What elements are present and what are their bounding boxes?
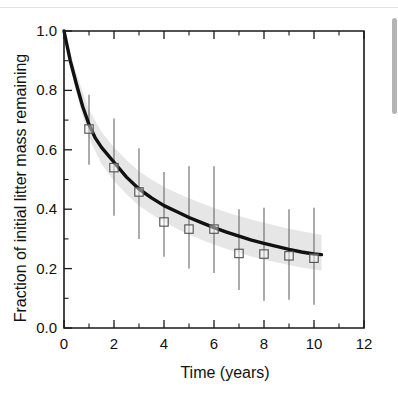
y-tick-label: 0.2 (36, 260, 57, 277)
y-axis-title: Fraction of initial litter mass remainin… (12, 54, 29, 323)
data-point-marker (85, 125, 93, 133)
data-point-marker (235, 249, 243, 257)
data-point-marker (285, 252, 293, 260)
x-axis-title: Time (years) (180, 364, 269, 381)
x-tick-label: 12 (356, 335, 373, 352)
data-point-marker (110, 163, 118, 171)
scrollbar-thumb[interactable] (392, 18, 397, 114)
data-point-marker (210, 225, 218, 233)
y-tick-label: 1.0 (36, 22, 57, 39)
data-point-marker (135, 188, 143, 196)
data-point-marker (185, 225, 193, 233)
data-point-marker (260, 250, 268, 258)
x-tick-label: 10 (306, 335, 323, 352)
litter-decay-chart: 024681012 0.00.20.40.60.81.0 Time (years… (0, 8, 382, 396)
y-tick-label: 0.4 (36, 200, 57, 217)
x-tick-label: 0 (60, 335, 68, 352)
x-tick-label: 2 (110, 335, 118, 352)
chart-canvas: 024681012 0.00.20.40.60.81.0 Time (years… (0, 8, 382, 396)
y-axis-tick-labels: 0.00.20.40.60.81.0 (36, 22, 57, 336)
x-tick-label: 4 (160, 335, 168, 352)
y-tick-label: 0.8 (36, 81, 57, 98)
vertical-scrollbar[interactable] (391, 8, 398, 398)
y-axis-ticks (64, 31, 72, 328)
y-tick-label: 0.0 (36, 319, 57, 336)
x-axis-tick-labels: 024681012 (60, 335, 373, 352)
x-tick-label: 8 (260, 335, 268, 352)
x-tick-label: 6 (210, 335, 218, 352)
axis-layer: 024681012 0.00.20.40.60.81.0 (36, 22, 372, 352)
errorbar-layer (89, 95, 314, 305)
figure-page: 024681012 0.00.20.40.60.81.0 Time (years… (0, 0, 398, 398)
y-tick-label: 0.6 (36, 141, 57, 158)
data-point-marker (310, 254, 318, 262)
data-point-marker (160, 218, 168, 226)
